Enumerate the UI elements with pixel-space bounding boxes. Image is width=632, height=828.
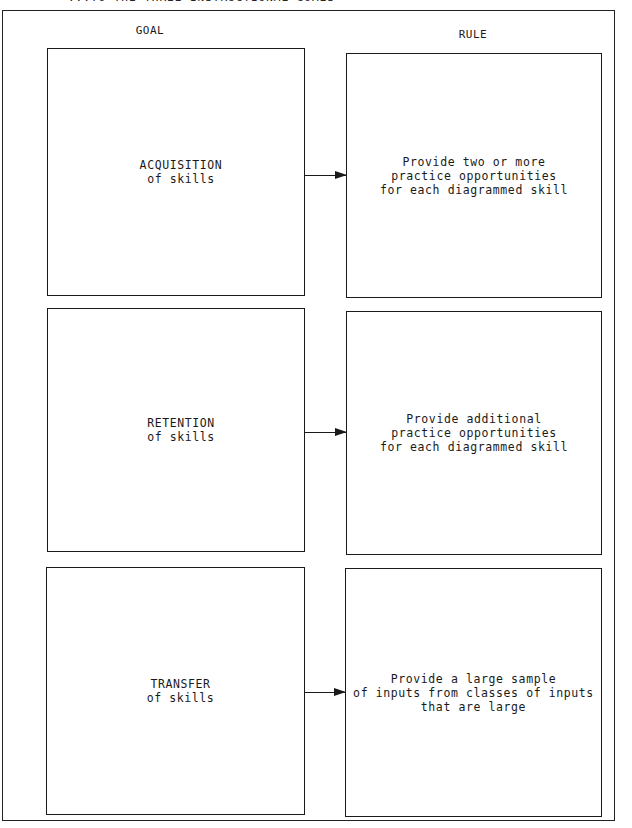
goal-label: TRANSFER of skills (147, 677, 215, 705)
rule-text: Provide additional practice opportunitie… (380, 412, 568, 454)
goal-label: ACQUISITION of skills (140, 158, 223, 186)
rule-box-retention: Provide additional practice opportunitie… (346, 311, 602, 555)
goal-label: RETENTION of skills (147, 416, 215, 444)
rule-column-header: RULE (423, 28, 523, 41)
goal-box-acquisition: ACQUISITION of skills (47, 48, 305, 296)
arrow-right-icon (305, 432, 346, 433)
rule-text: Provide a large sample of inputs from cl… (353, 672, 594, 714)
arrow-right-icon (305, 692, 345, 693)
goal-box-transfer: TRANSFER of skills (46, 567, 305, 815)
rule-box-acquisition: Provide two or more practice opportuniti… (346, 53, 602, 298)
arrow-right-icon (305, 175, 346, 176)
goal-box-retention: RETENTION of skills (47, 308, 305, 552)
rule-box-transfer: Provide a large sample of inputs from cl… (345, 568, 602, 817)
goal-column-header: GOAL (100, 24, 200, 37)
rule-text: Provide two or more practice opportuniti… (380, 155, 568, 197)
figure-caption: ...TO THE THREE INSTRUCTIONAL GOALS (68, 0, 335, 4)
